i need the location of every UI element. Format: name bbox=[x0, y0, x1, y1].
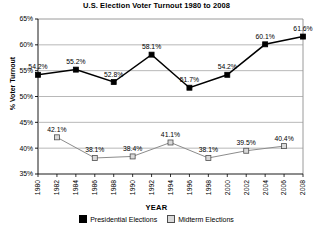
data-label: 54.2% bbox=[218, 63, 237, 70]
y-tick-label: 50% bbox=[19, 93, 33, 100]
data-label: 55.2% bbox=[66, 58, 85, 65]
y-tick-label: 60% bbox=[19, 41, 33, 48]
x-tick-label: 2008 bbox=[299, 180, 306, 195]
x-tick-label: 1982 bbox=[53, 180, 60, 195]
data-label: 41.1% bbox=[161, 131, 180, 138]
y-tick-labels-group: 65%60%55%50%45%40%35% bbox=[19, 15, 33, 177]
marker-presidential[interactable] bbox=[149, 52, 154, 57]
chart-legend: Presidential Elections Midterm Elections bbox=[0, 215, 313, 223]
data-label: 60.1% bbox=[256, 33, 275, 40]
marker-presidential[interactable] bbox=[111, 80, 116, 85]
x-tick-label: 2004 bbox=[262, 180, 269, 195]
data-label: 38.4% bbox=[123, 145, 142, 152]
x-tick-labels-group: 1980198219841986198819901992199419961998… bbox=[34, 180, 306, 195]
marker-midterm[interactable] bbox=[282, 144, 287, 149]
marker-midterm[interactable] bbox=[54, 135, 59, 140]
marker-midterm[interactable] bbox=[244, 148, 249, 153]
series-markers-group bbox=[36, 34, 306, 160]
x-tick-label: 1992 bbox=[148, 180, 155, 195]
legend-label-midterm: Midterm Elections bbox=[178, 216, 234, 223]
marker-midterm[interactable] bbox=[206, 155, 211, 160]
x-tick-label: 1994 bbox=[167, 180, 174, 195]
data-label: 61.6% bbox=[293, 25, 312, 32]
x-tick-label: 1984 bbox=[72, 180, 79, 195]
y-tick-label: 45% bbox=[19, 119, 33, 126]
y-tick-label: 40% bbox=[19, 145, 33, 152]
plot-area: 65%60%55%50%45%40%35% 198019821984198619… bbox=[0, 0, 313, 229]
legend-label-presidential: Presidential Elections bbox=[90, 216, 157, 223]
data-label: 38.1% bbox=[199, 146, 218, 153]
x-tick-label: 1980 bbox=[34, 180, 41, 195]
data-label: 38.1% bbox=[85, 146, 104, 153]
marker-presidential[interactable] bbox=[187, 85, 192, 90]
data-label: 52.8% bbox=[104, 71, 123, 78]
marker-midterm[interactable] bbox=[130, 154, 135, 159]
x-tick-label: 2002 bbox=[243, 180, 250, 195]
marker-presidential[interactable] bbox=[301, 34, 306, 39]
marker-presidential[interactable] bbox=[225, 72, 230, 77]
data-label: 42.1% bbox=[47, 126, 66, 133]
marker-presidential[interactable] bbox=[263, 42, 268, 47]
x-tick-label: 1998 bbox=[205, 180, 212, 195]
marker-presidential[interactable] bbox=[36, 72, 41, 77]
data-label: 54.2% bbox=[28, 63, 47, 70]
legend-item-midterm[interactable]: Midterm Elections bbox=[167, 215, 234, 223]
data-label: 40.4% bbox=[274, 135, 293, 142]
legend-item-presidential[interactable]: Presidential Elections bbox=[79, 215, 157, 223]
data-labels-group: 54.2%55.2%52.8%58.1%51.7%54.2%60.1%61.6%… bbox=[28, 25, 312, 153]
data-label: 51.7% bbox=[180, 76, 199, 83]
legend-swatch-presidential-icon bbox=[79, 215, 87, 223]
y-tick-label: 65% bbox=[19, 15, 33, 22]
data-label: 39.5% bbox=[237, 139, 256, 146]
x-tick-label: 1990 bbox=[129, 180, 136, 195]
marker-presidential[interactable] bbox=[73, 67, 78, 72]
x-tick-label: 2000 bbox=[224, 180, 231, 195]
legend-swatch-midterm-icon bbox=[167, 215, 175, 223]
y-tick-label: 35% bbox=[19, 170, 33, 177]
x-tick-label: 1986 bbox=[91, 180, 98, 195]
x-axis-title: YEAR bbox=[0, 203, 313, 212]
x-tick-label: 1996 bbox=[186, 180, 193, 195]
chart-container: U.S. Election Voter Turnout 1980 to 2008… bbox=[0, 0, 313, 229]
marker-midterm[interactable] bbox=[92, 155, 97, 160]
x-tick-label: 2006 bbox=[280, 180, 287, 195]
x-tick-label: 1988 bbox=[110, 180, 117, 195]
data-label: 58.1% bbox=[142, 43, 161, 50]
marker-midterm[interactable] bbox=[168, 140, 173, 145]
